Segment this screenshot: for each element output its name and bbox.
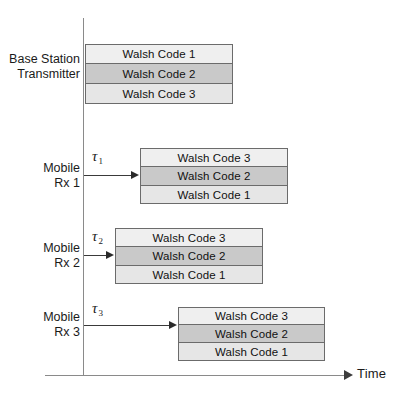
code-band: Walsh Code 2 — [141, 167, 287, 186]
delay-arrow-head-1 — [131, 171, 139, 179]
delay-symbol-subscript: 1 — [98, 156, 103, 166]
delay-symbol-glyph: τ — [92, 228, 97, 244]
delay-arrow-head-2 — [106, 251, 114, 259]
delay-arrow-line-2 — [84, 255, 107, 256]
code-stack-mobile-rx-1: Walsh Code 3 Walsh Code 2 Walsh Code 1 — [140, 148, 288, 204]
delay-arrow-head-3 — [169, 321, 177, 329]
vertical-reference-axis — [83, 18, 84, 375]
row-label-base-station: Base Station Transmitter — [0, 52, 80, 82]
time-axis-arrow-icon — [344, 370, 353, 380]
code-band: Walsh Code 3 — [179, 308, 324, 325]
delay-symbol-glyph: τ — [92, 148, 97, 164]
delay-symbol-glyph: τ — [92, 300, 97, 316]
code-band: Walsh Code 2 — [86, 64, 232, 84]
delay-symbol-subscript: 2 — [98, 236, 103, 246]
code-band: Walsh Code 1 — [116, 266, 262, 283]
row-label-mobile-rx-1: Mobile Rx 1 — [0, 161, 80, 191]
delay-arrow-line-1 — [84, 175, 132, 176]
code-stack-mobile-rx-3: Walsh Code 3 Walsh Code 2 Walsh Code 1 — [178, 307, 325, 361]
code-stack-mobile-rx-2: Walsh Code 3 Walsh Code 2 Walsh Code 1 — [115, 228, 263, 284]
walsh-code-timing-diagram: Base Station Transmitter Walsh Code 1 Wa… — [0, 0, 394, 402]
delay-symbol-subscript: 3 — [98, 308, 103, 318]
code-band: Walsh Code 1 — [179, 343, 324, 360]
delay-symbol-tau-1: τ1 — [92, 148, 102, 165]
time-axis-label: Time — [357, 366, 386, 381]
time-axis-line — [45, 375, 345, 376]
code-band: Walsh Code 3 — [86, 84, 232, 103]
code-band: Walsh Code 1 — [141, 186, 287, 203]
code-band: Walsh Code 3 — [116, 229, 262, 247]
row-label-mobile-rx-3: Mobile Rx 3 — [0, 310, 80, 340]
code-band: Walsh Code 1 — [86, 45, 232, 64]
code-stack-base-station: Walsh Code 1 Walsh Code 2 Walsh Code 3 — [85, 44, 233, 104]
code-band: Walsh Code 2 — [116, 247, 262, 266]
delay-arrow-line-3 — [84, 325, 170, 326]
row-label-mobile-rx-2: Mobile Rx 2 — [0, 241, 80, 271]
code-band: Walsh Code 2 — [179, 325, 324, 343]
delay-symbol-tau-3: τ3 — [92, 300, 102, 317]
delay-symbol-tau-2: τ2 — [92, 228, 102, 245]
code-band: Walsh Code 3 — [141, 149, 287, 167]
